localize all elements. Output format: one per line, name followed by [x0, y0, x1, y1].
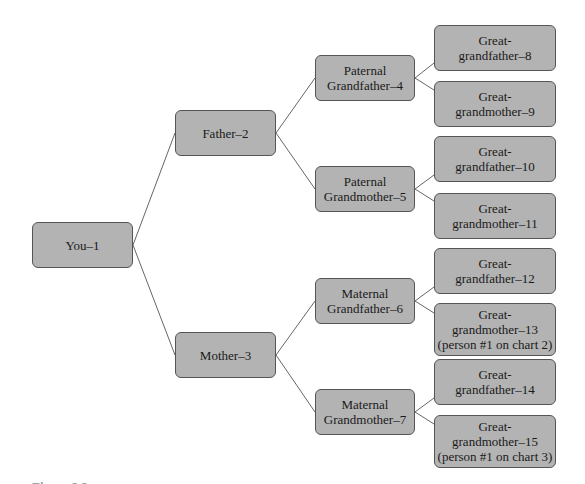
edge-5-10: [415, 175, 434, 189]
node-you-1: You–1: [32, 222, 133, 268]
node-label-line1: Great-: [478, 419, 511, 434]
node-label-line1: Great-: [478, 367, 511, 382]
node-paternal-grandmother-5: Paternal Grandmother–5: [315, 166, 415, 212]
node-label: Mother–3: [200, 348, 251, 363]
node-label-line1: Great-: [478, 307, 511, 322]
edge-4-9: [415, 78, 434, 90]
node-great-grandmother-11: Great- grandmother–11: [434, 193, 556, 239]
edge-7-14: [415, 398, 434, 412]
node-label-line2: grandfather–12: [455, 271, 534, 286]
node-label-line1: Paternal: [344, 63, 387, 78]
edge-5-11: [415, 189, 434, 201]
edge-7-15: [415, 412, 434, 424]
edge-1-2: [133, 133, 175, 245]
node-label-line2: grandfather–8: [459, 48, 532, 63]
node-label-line1: Paternal: [344, 174, 387, 189]
node-label-line1: Great-: [478, 89, 511, 104]
node-great-grandfather-14: Great- grandfather–14: [434, 359, 556, 405]
node-label-line1: Maternal: [342, 286, 389, 301]
node-label-line2: Grandmother–5: [324, 189, 406, 204]
edge-4-8: [415, 63, 434, 78]
node-label-line2: Grandfather–6: [327, 301, 403, 316]
figure-caption: Figure 2.2: [32, 477, 88, 484]
edge-3-7: [276, 355, 315, 412]
node-label-line2: grandmother–11: [452, 216, 537, 231]
node-great-grandfather-12: Great- grandfather–12: [434, 248, 556, 294]
node-maternal-grandfather-6: Maternal Grandfather–6: [315, 278, 415, 324]
node-label-line1: Great-: [478, 201, 511, 216]
node-label: You–1: [65, 238, 99, 253]
node-label-line2: grandmother–13: [452, 322, 538, 337]
node-label-line2: grandmother–9: [455, 104, 534, 119]
edge-2-4: [276, 78, 315, 133]
edge-1-3: [133, 245, 175, 355]
node-label-line2: Grandfather–4: [327, 78, 403, 93]
node-great-grandmother-9: Great- grandmother–9: [434, 81, 556, 127]
node-great-grandmother-13: Great- grandmother–13 (person #1 on char…: [434, 303, 556, 356]
node-label-line2: grandmother–15: [452, 434, 538, 449]
edge-6-13: [415, 301, 434, 313]
node-label-line1: Great-: [478, 256, 511, 271]
node-label-line1: Great-: [478, 144, 511, 159]
edge-6-12: [415, 287, 434, 301]
node-paternal-grandfather-4: Paternal Grandfather–4: [315, 55, 415, 101]
node-great-grandmother-15: Great- grandmother–15 (person #1 on char…: [434, 415, 556, 468]
node-label-line1: Great-: [478, 33, 511, 48]
node-great-grandfather-8: Great- grandfather–8: [434, 25, 556, 71]
node-label-line2: grandfather–10: [455, 159, 534, 174]
node-label-line2: grandfather–14: [455, 382, 534, 397]
node-father-2: Father–2: [175, 110, 276, 156]
node-label-line3: (person #1 on chart 2): [438, 337, 553, 352]
node-label: Father–2: [202, 126, 248, 141]
node-label-line2: Grandmother–7: [324, 412, 406, 427]
node-label-line3: (person #1 on chart 3): [438, 449, 553, 464]
node-label-line1: Maternal: [342, 397, 389, 412]
node-mother-3: Mother–3: [175, 332, 276, 378]
edge-2-5: [276, 133, 315, 189]
node-maternal-grandmother-7: Maternal Grandmother–7: [315, 389, 415, 435]
node-great-grandfather-10: Great- grandfather–10: [434, 136, 556, 182]
edge-3-6: [276, 301, 315, 355]
